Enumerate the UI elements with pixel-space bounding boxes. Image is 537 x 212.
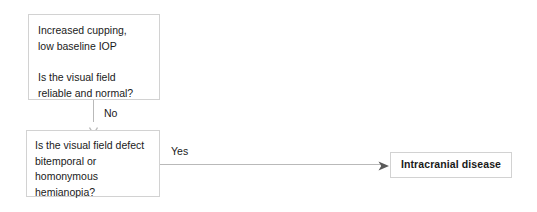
edge-label-no: No [104,107,117,119]
node-intracranial-disease[interactable]: Intracranial disease [390,152,512,178]
edge-label-yes: Yes [171,145,188,157]
node-presentation[interactable]: Increased cupping, low baseline IOP Is t… [28,14,160,100]
edge-no-line [93,100,94,122]
chevron-down-arrowhead [89,121,98,129]
node-intracranial-disease-text: Intracranial disease [401,157,501,172]
triangle-right-arrowhead [378,158,390,170]
node-field-defect[interactable]: Is the visual field defect bitemporal or… [26,130,160,197]
flowchart-canvas: Increased cupping, low baseline IOP Is t… [0,0,537,212]
node-presentation-text: Increased cupping, low baseline IOP Is t… [38,23,150,102]
edge-yes-line [160,164,380,165]
node-field-defect-text: Is the visual field defect bitemporal or… [35,138,151,200]
